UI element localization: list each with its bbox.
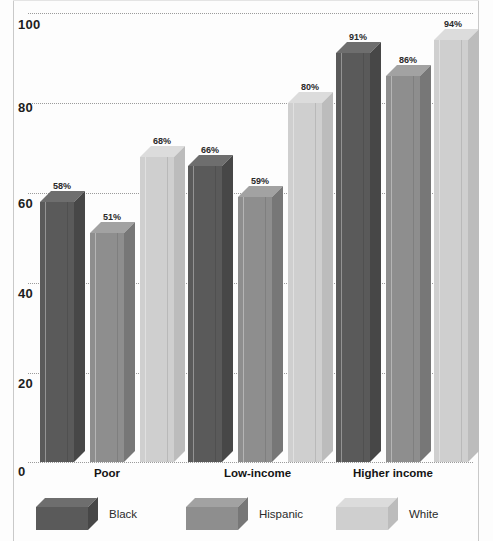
bar-low-income-white: [288, 103, 322, 462]
bar-side-face: [124, 222, 135, 462]
legend-label-black: Black: [109, 508, 137, 520]
category-label-poor: Poor: [62, 467, 152, 479]
y-axis-label-80: 80: [18, 100, 52, 115]
bar-side-face: [420, 65, 431, 462]
legend-label-white: White: [409, 508, 438, 520]
bar-side-face: [174, 146, 185, 462]
bar-shade-line: [461, 40, 462, 462]
swatch-front-face: [336, 507, 388, 530]
bar-highlight-line: [439, 40, 440, 462]
bar-highlight-line: [95, 233, 96, 462]
data-label-poor-black: 58%: [42, 181, 82, 191]
bar-shade-line: [363, 53, 364, 462]
bar-highlight-line: [293, 103, 294, 462]
bar-shade-line: [265, 197, 266, 462]
category-label-higher-income: Higher income: [338, 467, 448, 479]
bar-side-face: [272, 186, 283, 462]
bar-shade-line: [117, 233, 118, 462]
data-label-low-income-white: 80%: [290, 82, 330, 92]
bar-poor-white: [140, 157, 174, 462]
swatch-front-face: [36, 507, 88, 530]
gridline-0: [28, 462, 473, 463]
category-label-low-income: Low-income: [205, 467, 310, 479]
legend-swatch-white: [336, 498, 388, 524]
bar-low-income-black: [188, 166, 222, 462]
gridline-100: [28, 13, 473, 14]
bar-highlight-line: [391, 76, 392, 462]
bar-highlight-line: [243, 197, 244, 462]
bar-side-face: [468, 29, 479, 462]
swatch-front-face: [186, 507, 238, 530]
bar-poor-hispanic: [90, 233, 124, 462]
bar-side-face: [222, 155, 233, 462]
bar-shade-line: [215, 166, 216, 462]
y-axis-label-100: 100: [18, 17, 52, 32]
data-label-low-income-black: 66%: [190, 145, 230, 155]
bar-highlight-line: [341, 53, 342, 462]
bar-shade-line: [315, 103, 316, 462]
bar-shade-line: [413, 76, 414, 462]
bar-shade-line: [167, 157, 168, 462]
bar-highlight-line: [145, 157, 146, 462]
data-label-poor-hispanic: 51%: [92, 212, 132, 222]
y-axis-label-0: 0: [18, 464, 52, 479]
bar-shade-line: [67, 202, 68, 462]
data-label-higher-income-black: 91%: [338, 32, 378, 42]
chart-legend: Black Hispanic White: [0, 486, 493, 541]
bar-higher-income-black: [336, 53, 370, 462]
data-label-low-income-hispanic: 59%: [240, 176, 280, 186]
bar-highlight-line: [45, 202, 46, 462]
bar-chart-plot-area: 100 80 60 40 20 0 58% 51%: [0, 0, 493, 475]
legend-swatch-hispanic: [186, 498, 238, 524]
bar-side-face: [370, 42, 381, 462]
bar-poor-black: [40, 202, 74, 462]
legend-swatch-black: [36, 498, 88, 524]
bar-low-income-hispanic: [238, 197, 272, 462]
bar-higher-income-hispanic: [386, 76, 420, 462]
data-label-higher-income-white: 94%: [433, 19, 473, 29]
data-label-higher-income-hispanic: 86%: [388, 55, 428, 65]
bar-side-face: [74, 191, 85, 462]
bar-side-face: [322, 92, 333, 462]
data-label-poor-white: 68%: [142, 136, 182, 146]
chart-page: 100 80 60 40 20 0 58% 51%: [0, 0, 493, 541]
bar-higher-income-white: [434, 40, 468, 462]
bar-highlight-line: [193, 166, 194, 462]
legend-label-hispanic: Hispanic: [259, 508, 303, 520]
